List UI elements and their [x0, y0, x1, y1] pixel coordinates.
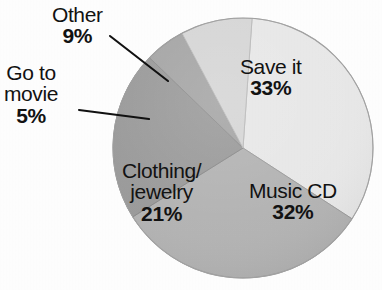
slice-label-music-cd-percent: 32%: [249, 201, 337, 222]
slice-label-go-to-movie-percent: 5%: [4, 105, 58, 126]
slice-label-save-it: Save it 33%: [240, 56, 301, 99]
slice-label-go-to-movie-name-line2: movie: [4, 83, 58, 104]
slice-label-go-to-movie: Go to movie 5%: [4, 62, 58, 126]
slice-label-other-percent: 9%: [52, 25, 103, 46]
slice-label-music-cd: Music CD 32%: [249, 180, 337, 223]
pie-chart-figure: Save it 33% Music CD 32% Clothing/ jewel…: [0, 0, 382, 290]
slice-label-other: Other 9%: [52, 4, 103, 47]
slice-label-save-it-percent: 33%: [240, 77, 301, 98]
slice-label-clothing-jewelry-name-line2: jewelry: [122, 181, 201, 202]
slice-label-save-it-name: Save it: [240, 56, 301, 77]
slice-label-clothing-jewelry: Clothing/ jewelry 21%: [122, 160, 201, 224]
slice-label-go-to-movie-name-line1: Go to: [4, 62, 58, 83]
slice-label-clothing-jewelry-percent: 21%: [122, 203, 201, 224]
slice-label-music-cd-name: Music CD: [249, 180, 337, 201]
slice-label-clothing-jewelry-name-line1: Clothing/: [122, 160, 201, 181]
slice-label-other-name: Other: [52, 4, 103, 25]
